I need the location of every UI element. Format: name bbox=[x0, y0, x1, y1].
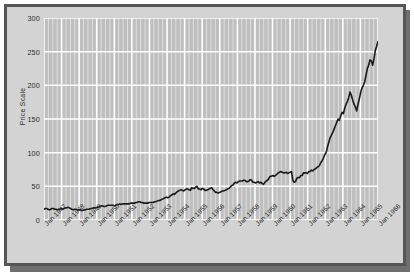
y-tick-label: 150 bbox=[27, 115, 40, 124]
y-tick-label: 200 bbox=[27, 81, 40, 90]
plot-area bbox=[44, 18, 378, 220]
y-axis-title: Price Scale bbox=[19, 77, 26, 137]
x-axis-ticks: Jan 1947Jan 1948Jan 1949Jan 1950Jan 1951… bbox=[44, 222, 378, 263]
y-tick-label: 100 bbox=[27, 149, 40, 158]
plot-canvas bbox=[44, 18, 378, 220]
y-tick-label: 250 bbox=[27, 48, 40, 57]
chart-figure: 050100150200250300 Price Scale Jan 1947J… bbox=[0, 0, 414, 276]
y-tick-label: 300 bbox=[27, 14, 40, 23]
chart-plate: 050100150200250300 Price Scale Jan 1947J… bbox=[7, 7, 403, 263]
y-tick-label: 0 bbox=[36, 216, 40, 225]
y-tick-label: 50 bbox=[32, 182, 40, 191]
